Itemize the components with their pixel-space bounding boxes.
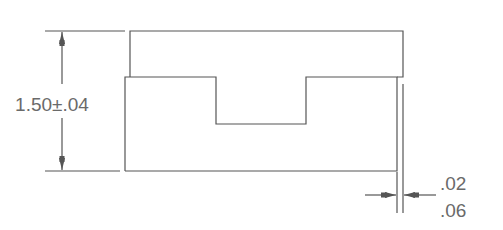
gap-dimension-lower-label: .06 — [440, 200, 466, 221]
gap-dimension-upper-label: .02 — [440, 173, 466, 194]
height-dimension-label: 1.50±.04 — [15, 94, 89, 115]
top-plate — [130, 31, 403, 77]
gap-dimension-arrows — [365, 192, 436, 198]
technical-drawing: 1.50±.04 .02 .06 — [0, 0, 503, 230]
lower-body-with-notch — [125, 77, 397, 171]
